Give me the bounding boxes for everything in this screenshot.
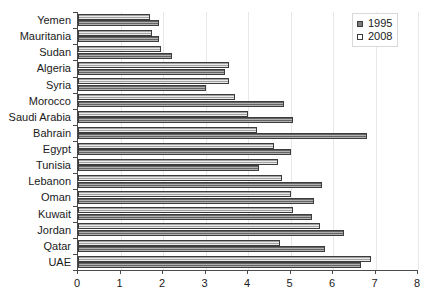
- y-tick-mark-8: [73, 141, 77, 142]
- y-tick-mark-1: [73, 28, 77, 29]
- legend-label-1995: 1995: [368, 17, 392, 30]
- legend-label-2008: 2008: [368, 30, 392, 43]
- bar-1995-lebanon: [78, 182, 322, 188]
- x-tick-label-5: 5: [275, 276, 305, 290]
- bar-2008-tunisia: [78, 159, 278, 165]
- y-tick-mark-3: [73, 60, 77, 61]
- y-tick-mark-5: [73, 93, 77, 94]
- x-tick-mark-5: [290, 270, 291, 274]
- x-tick-label-7: 7: [360, 276, 390, 290]
- bar-2008-qatar: [78, 240, 280, 246]
- y-tick-mark-15: [73, 254, 77, 255]
- chart-container: 012345678 YemenMauritaniaSudanAlgeriaSyr…: [0, 0, 430, 296]
- x-tick-label-1: 1: [105, 276, 135, 290]
- bar-1995-yemen: [78, 20, 159, 26]
- category-label-syria: Syria: [0, 79, 71, 91]
- bar-2008-saudi-arabia: [78, 111, 248, 117]
- y-tick-mark-9: [73, 157, 77, 158]
- category-label-egypt: Egypt: [0, 143, 71, 155]
- bar-2008-sudan: [78, 46, 161, 52]
- bar-2008-uae: [78, 256, 371, 262]
- legend-item-1995[interactable]: 1995: [357, 17, 392, 30]
- y-tick-mark-2: [73, 44, 77, 45]
- bar-1995-oman: [78, 198, 314, 204]
- bar-1995-egypt: [78, 149, 291, 155]
- bar-1995-syria: [78, 85, 206, 91]
- legend-swatch-1995-icon: [357, 21, 363, 27]
- legend: 1995 2008: [352, 13, 398, 47]
- bar-1995-jordan: [78, 230, 344, 236]
- gridline-7: [376, 12, 377, 270]
- x-tick-label-8: 8: [402, 276, 430, 290]
- category-label-bahrain: Bahrain: [0, 127, 71, 139]
- x-tick-label-6: 6: [317, 276, 347, 290]
- legend-swatch-2008-icon: [357, 34, 363, 40]
- x-tick-label-4: 4: [232, 276, 262, 290]
- bar-2008-algeria: [78, 62, 229, 68]
- x-tick-mark-7: [375, 270, 376, 274]
- bar-2008-kuwait: [78, 207, 293, 213]
- bar-2008-morocco: [78, 94, 235, 100]
- category-label-yemen: Yemen: [0, 14, 71, 26]
- bar-1995-mauritania: [78, 36, 159, 42]
- category-label-qatar: Qatar: [0, 240, 71, 252]
- bar-1995-bahrain: [78, 133, 367, 139]
- bar-1995-morocco: [78, 101, 284, 107]
- category-label-oman: Oman: [0, 191, 71, 203]
- x-tick-mark-8: [417, 270, 418, 274]
- bar-1995-uae: [78, 262, 361, 268]
- x-tick-mark-2: [162, 270, 163, 274]
- x-tick-mark-0: [77, 270, 78, 274]
- y-tick-mark-13: [73, 222, 77, 223]
- category-label-sudan: Sudan: [0, 46, 71, 58]
- y-tick-mark-end: [73, 270, 77, 271]
- category-label-uae: UAE: [0, 256, 71, 268]
- category-label-morocco: Morocco: [0, 95, 71, 107]
- bar-2008-bahrain: [78, 127, 257, 133]
- y-tick-mark-12: [73, 206, 77, 207]
- bar-1995-sudan: [78, 53, 172, 59]
- bar-2008-oman: [78, 191, 291, 197]
- bar-1995-kuwait: [78, 214, 312, 220]
- bar-1995-tunisia: [78, 165, 259, 171]
- bar-2008-lebanon: [78, 175, 282, 181]
- gridline-8: [418, 12, 419, 270]
- category-label-saudi-arabia: Saudi Arabia: [0, 111, 71, 123]
- y-tick-mark-4: [73, 77, 77, 78]
- bar-2008-jordan: [78, 223, 320, 229]
- x-tick-mark-3: [205, 270, 206, 274]
- y-tick-mark-7: [73, 125, 77, 126]
- bar-2008-egypt: [78, 143, 274, 149]
- y-tick-mark-10: [73, 173, 77, 174]
- category-label-mauritania: Mauritania: [0, 30, 71, 42]
- category-label-algeria: Algeria: [0, 62, 71, 74]
- x-tick-mark-1: [120, 270, 121, 274]
- bar-1995-qatar: [78, 246, 325, 252]
- x-tick-mark-6: [332, 270, 333, 274]
- category-label-tunisia: Tunisia: [0, 159, 71, 171]
- y-tick-mark-6: [73, 109, 77, 110]
- bar-2008-mauritania: [78, 30, 152, 36]
- plot-area: [77, 12, 417, 270]
- bar-2008-yemen: [78, 14, 150, 20]
- y-tick-mark-11: [73, 189, 77, 190]
- bar-1995-algeria: [78, 69, 225, 75]
- y-tick-mark-14: [73, 238, 77, 239]
- bar-1995-saudi-arabia: [78, 117, 293, 123]
- x-tick-label-2: 2: [147, 276, 177, 290]
- bar-2008-syria: [78, 78, 229, 84]
- x-tick-label-0: 0: [62, 276, 92, 290]
- x-tick-mark-4: [247, 270, 248, 274]
- x-tick-label-3: 3: [190, 276, 220, 290]
- category-label-jordan: Jordan: [0, 224, 71, 236]
- y-tick-mark-0: [73, 12, 77, 13]
- category-label-kuwait: Kuwait: [0, 208, 71, 220]
- legend-item-2008[interactable]: 2008: [357, 30, 392, 43]
- category-label-lebanon: Lebanon: [0, 175, 71, 187]
